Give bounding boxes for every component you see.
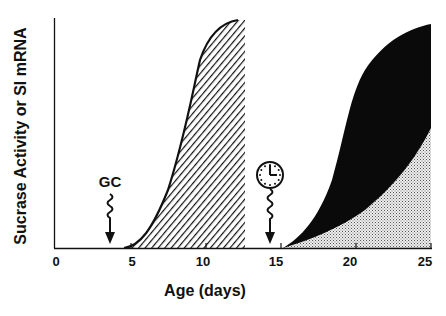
svg-text:20: 20 xyxy=(343,254,357,269)
clock-wavy-arrow-icon xyxy=(265,189,275,244)
svg-text:10: 10 xyxy=(196,254,210,269)
x-tick-labels: 0 5 10 15 20 25 xyxy=(52,254,432,269)
clock-icon xyxy=(257,162,283,188)
gc-wavy-arrow-icon xyxy=(105,194,115,244)
svg-text:0: 0 xyxy=(52,254,59,269)
gc-label: GC xyxy=(99,173,122,190)
svg-text:5: 5 xyxy=(128,254,135,269)
y-axis-label: Sucrase Activity or SI mRNA xyxy=(12,27,29,245)
svg-text:25: 25 xyxy=(418,254,432,269)
x-axis-label: Age (days) xyxy=(164,282,246,299)
svg-text:15: 15 xyxy=(269,254,283,269)
chart: 0 5 10 15 20 25 Age (days) Sucrase Activ… xyxy=(0,0,446,316)
